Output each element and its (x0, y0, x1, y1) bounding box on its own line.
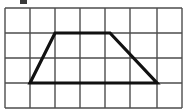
trapezoid-on-grid-diagram (0, 0, 191, 112)
diagram-background (0, 0, 191, 112)
artifact-layer (20, 0, 27, 4)
cropped-glyph (20, 0, 27, 4)
figure-container (0, 0, 191, 112)
